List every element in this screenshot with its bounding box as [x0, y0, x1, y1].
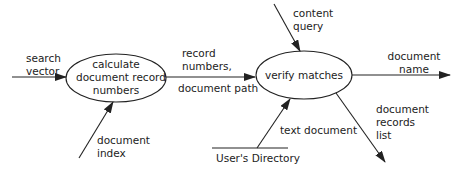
flow-search-vector-label: search vector — [26, 52, 61, 78]
label-line: vector — [26, 65, 61, 78]
process-calculate-line-3: numbers — [76, 84, 156, 97]
label-line: record — [182, 47, 232, 60]
process-verify-label: verify matches — [264, 69, 344, 82]
flow-document-name-label: document name — [382, 50, 446, 76]
label-line: list — [376, 129, 429, 142]
label-line: document — [382, 50, 446, 63]
flow-content-query-label: content query — [293, 7, 333, 33]
label-line: index — [97, 147, 150, 160]
data-store-label: User's Directory — [216, 152, 300, 165]
label-line: query — [293, 20, 333, 33]
label-line: name — [382, 63, 446, 76]
label-line: content — [293, 7, 333, 20]
flow-document-path-label: document path — [178, 82, 258, 95]
label-line: numbers, — [182, 60, 232, 73]
flow-document-records-list-label: document records list — [376, 103, 429, 142]
process-calculate-line-1: calculate — [76, 58, 156, 71]
flow-document-index-label: document index — [97, 134, 150, 160]
process-calculate-label: calculate document record numbers — [76, 58, 156, 97]
flow-text-document-label: text document — [280, 124, 357, 137]
data-flow-diagram: calculate document record numbers verify… — [0, 0, 470, 172]
label-line: records — [376, 116, 429, 129]
process-calculate-line-2: document record — [76, 71, 156, 84]
process-verify-line-1: verify matches — [264, 69, 344, 82]
label-line: document — [97, 134, 150, 147]
flow-record-numbers-label: record numbers, — [182, 47, 232, 73]
label-line: document — [376, 103, 429, 116]
label-line: search — [26, 52, 61, 65]
